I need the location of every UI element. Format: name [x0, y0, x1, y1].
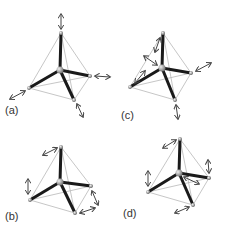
panel-d-molecule: [146, 137, 211, 213]
panel-c-molecule: [128, 31, 211, 119]
double-arrow-icon: [175, 207, 189, 213]
panel-a-molecule: [10, 14, 110, 117]
panel-b-molecule: [28, 145, 98, 215]
panel-label-d: (d): [123, 207, 136, 219]
panel-label-a: (a): [5, 104, 18, 116]
panel-label-c: (c): [121, 109, 134, 121]
double-arrow-icon: [95, 76, 110, 77]
double-arrow-icon: [10, 91, 25, 99]
double-arrow-icon: [43, 148, 57, 155]
double-arrow-icon: [196, 63, 211, 71]
double-arrow-icon: [208, 160, 209, 173]
double-arrow-icon: [176, 105, 178, 119]
panel-label-b: (b): [5, 210, 18, 222]
double-arrow-icon: [77, 104, 83, 117]
double-arrow-icon: [80, 208, 95, 213]
double-arrow-icon: [92, 191, 98, 205]
tetrahedra-diagram: [0, 0, 231, 229]
double-arrow-icon: [163, 140, 176, 148]
